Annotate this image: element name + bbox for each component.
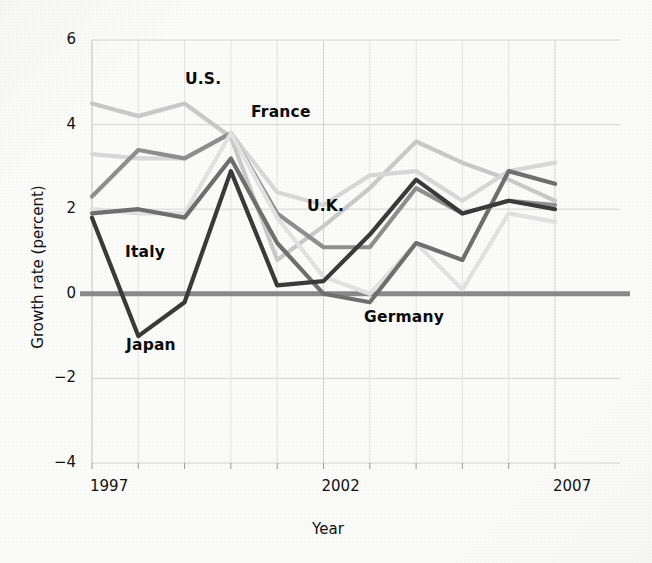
x-tick-label-2007: 2007 (553, 477, 591, 495)
y-tick-label--4: −4 (40, 453, 76, 471)
series-annotation-italy: Italy (125, 243, 165, 261)
tick-marks (92, 463, 555, 469)
series-annotation-u-s: U.S. (185, 70, 221, 88)
x-tick-label-1997: 1997 (90, 477, 128, 495)
series-annotation-u-k: U.K. (307, 197, 344, 215)
y-tick-label-6: 6 (40, 30, 76, 48)
x-axis-title: Year (268, 520, 388, 538)
gridlines (92, 40, 620, 463)
y-axis-title: Growth rate (percent) (29, 167, 47, 367)
chart-figure: −4−20246 199720022007 U.S.FranceU.K.Ital… (0, 0, 652, 563)
y-tick-label-4: 4 (40, 115, 76, 133)
series-annotation-japan: Japan (126, 336, 176, 354)
series-annotation-germany: Germany (364, 308, 444, 326)
x-tick-label-2002: 2002 (322, 477, 360, 495)
series-annotation-france: France (251, 103, 311, 121)
y-tick-label--2: −2 (40, 368, 76, 386)
